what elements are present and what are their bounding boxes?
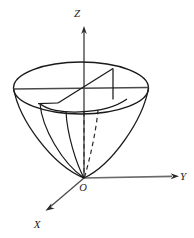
paraboloid-figure: Z Y X O (0, 0, 194, 238)
rim-radius-line (58, 69, 113, 104)
paraboloid-surface-group (14, 62, 149, 178)
hidden-parabola-dashed (85, 110, 99, 178)
y-axis-line (84, 176, 172, 178)
z-axis-label: Z (74, 7, 81, 19)
axes-group (46, 26, 180, 211)
hidden-lines-group (84, 110, 98, 178)
paraboloid-inner-mid-generator (66, 112, 84, 179)
x-axis-label: X (33, 218, 42, 230)
origin-label: O (79, 182, 87, 193)
y-axis-label: Y (180, 170, 188, 182)
paraboloid-inner-left-generator (40, 104, 84, 179)
paraboloid-diagram-svg: Z Y X O (0, 0, 194, 238)
rim-radius-extension (38, 103, 58, 104)
